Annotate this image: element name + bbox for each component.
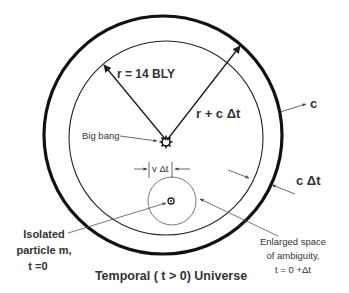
particle-label-line3: t =0	[28, 260, 47, 272]
c-dt-arrow-inner	[228, 170, 249, 178]
c-dt-label: c Δt	[296, 173, 321, 188]
particle-pointer	[68, 203, 166, 233]
c-dt-arrow-outer	[272, 185, 295, 194]
ambiguity-label-line1: Enlarged space	[260, 236, 326, 247]
ambiguity-label-line2: of ambiguity,	[266, 250, 319, 261]
outer-universe-circle	[44, 16, 282, 254]
big-bang-pointer	[120, 136, 157, 141]
radius-plus-arrow	[167, 46, 240, 140]
v-dt-label: v Δt	[152, 163, 169, 174]
particle-label-line2: particle m,	[16, 244, 71, 256]
big-bang-icon	[160, 136, 173, 149]
big-bang-label: Big bang	[82, 130, 120, 141]
ambiguity-pointer	[200, 199, 278, 236]
radius-plus-label: r + c Δt	[196, 106, 241, 121]
c-pointer	[280, 104, 306, 112]
radius-label: r = 14 BLY	[117, 67, 175, 81]
particle-label-line1: Isolated	[23, 228, 65, 240]
c-label: c	[310, 96, 317, 111]
universe-diagram: r = 14 BLY r + c Δt Big bang c c Δt v Δt…	[0, 0, 349, 293]
diagram-title: Temporal ( t > 0) Universe	[95, 269, 247, 283]
particle-icon	[168, 198, 174, 204]
ambiguity-label-line3: t = 0 +Δt	[275, 264, 311, 275]
